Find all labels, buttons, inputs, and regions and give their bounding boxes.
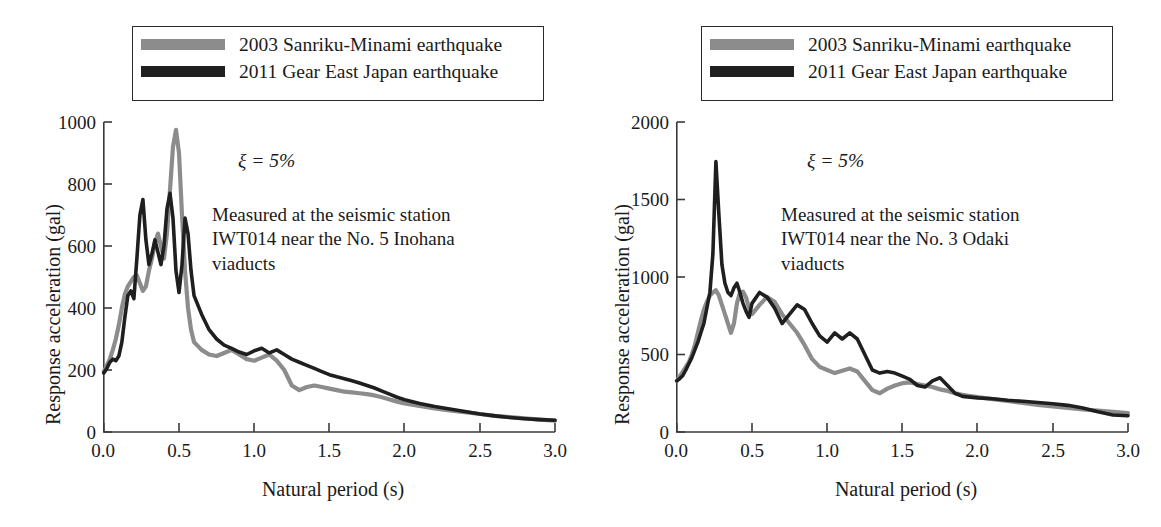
x-tick-label: 1.5 <box>875 440 929 462</box>
y-tick-label: 400 <box>44 298 96 320</box>
legend-label-2011: 2011 Gear East Japan earthquake <box>239 62 498 82</box>
chart-panel-right: 2003 Sanriku-Minami earthquake 2011 Gear… <box>581 0 1161 527</box>
legend-item: 2003 Sanriku-Minami earthquake <box>710 31 1102 58</box>
series-line-2011-left <box>104 193 555 420</box>
x-tick-label: 1.0 <box>227 440 281 462</box>
series-line-2011-right <box>677 162 1128 416</box>
x-axis-label-left: Natural period (s) <box>183 478 483 501</box>
legend-item: 2003 Sanriku-Minami earthquake <box>141 31 533 58</box>
legend-swatch-2011 <box>141 66 225 77</box>
x-tick-label: 0.5 <box>725 440 779 462</box>
x-tick-label: 1.5 <box>302 440 356 462</box>
y-tick-label: 200 <box>44 360 96 382</box>
y-tick-label: 600 <box>44 236 96 258</box>
y-tick-label: 2000 <box>613 112 669 134</box>
figure-container: 2003 Sanriku-Minami earthquake 2011 Gear… <box>0 0 1161 527</box>
y-tickmarks-right <box>677 122 685 432</box>
y-axis-label-right: Response acceleration (gal) <box>611 204 634 425</box>
chart-panel-left: 2003 Sanriku-Minami earthquake 2011 Gear… <box>0 0 580 527</box>
x-tick-label: 0.0 <box>76 440 130 462</box>
y-tick-label: 1000 <box>44 112 96 134</box>
legend-label-2003: 2003 Sanriku-Minami earthquake <box>808 35 1071 55</box>
x-tick-label: 3.0 <box>528 440 582 462</box>
x-tick-label: 2.5 <box>1026 440 1080 462</box>
y-tick-label: 1000 <box>613 267 669 289</box>
x-tick-label: 1.0 <box>800 440 854 462</box>
series-line-2003-left <box>104 130 555 421</box>
x-tick-label: 2.5 <box>453 440 507 462</box>
legend-label-2003: 2003 Sanriku-Minami earthquake <box>239 35 502 55</box>
axis-frame-right <box>677 122 1128 432</box>
x-tick-label: 0.5 <box>152 440 206 462</box>
x-tickmarks-left <box>104 423 555 432</box>
x-axis-label-right: Natural period (s) <box>756 478 1056 501</box>
plot-area-left <box>103 122 556 433</box>
legend-swatch-2011 <box>710 66 794 77</box>
legend-right: 2003 Sanriku-Minami earthquake 2011 Gear… <box>701 26 1113 101</box>
legend-swatch-2003 <box>141 39 225 50</box>
y-tickmarks-left <box>104 122 112 432</box>
x-tick-label: 2.0 <box>950 440 1004 462</box>
x-tick-label: 3.0 <box>1101 440 1155 462</box>
legend-label-2011: 2011 Gear East Japan earthquake <box>808 62 1067 82</box>
legend-item: 2011 Gear East Japan earthquake <box>710 58 1102 85</box>
y-tick-label: 500 <box>613 344 669 366</box>
legend-left: 2003 Sanriku-Minami earthquake 2011 Gear… <box>132 26 544 101</box>
plot-area-right <box>676 122 1129 433</box>
legend-item: 2011 Gear East Japan earthquake <box>141 58 533 85</box>
legend-swatch-2003 <box>710 39 794 50</box>
x-tick-label: 0.0 <box>649 440 703 462</box>
x-tick-label: 2.0 <box>377 440 431 462</box>
y-tick-label: 800 <box>44 174 96 196</box>
y-tick-label: 1500 <box>613 189 669 211</box>
x-tickmarks-right <box>677 423 1128 432</box>
